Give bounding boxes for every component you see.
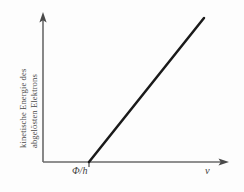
y-axis-label-line-2: abgelösten Elektrons — [30, 74, 39, 148]
data-line-kinetic-energy — [89, 18, 204, 162]
y-axis-label-line-1: kinetische Energie des — [19, 69, 28, 148]
photoelectric-effect-diagram: kinetische Energie des abgelösten Elektr… — [0, 0, 244, 192]
x-axis-variable-label: ν — [205, 165, 210, 176]
x-axis-threshold-label: Φ/h — [72, 165, 87, 176]
